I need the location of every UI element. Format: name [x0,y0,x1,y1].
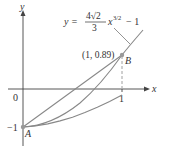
point-b-coord-label: (1, 0.89) [82,50,114,61]
function-curve-main [23,30,143,127]
point-b [120,53,124,57]
equation-leader-line [114,28,130,44]
equation-denominator: 3 [92,23,97,33]
x-axis-label: x [151,83,157,94]
function-curve [23,95,122,127]
y-tick-label-neg1: −1 [7,122,18,133]
point-a-label: A [24,128,32,139]
equation-numerator: 4√2 [86,11,101,21]
chord-ab [23,55,122,127]
origin-label: 0 [13,92,18,103]
equation-tail: − 1 [126,16,139,27]
point-b-label: B [125,55,131,66]
equation-lhs: y = [63,16,78,27]
y-axis-label: y [19,1,25,12]
curve-diagram: y x 0 1 −1 A B (1, 0.89) y = 4√2 3 x 3/2… [0,0,172,153]
equation-exponent: 3/2 [113,14,121,21]
x-axis-arrow-icon [144,87,150,92]
